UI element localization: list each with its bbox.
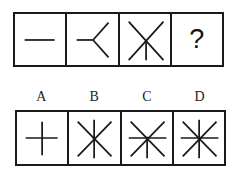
sequence-cell-unknown: ? [172, 14, 222, 65]
eight-ray-star-figure [174, 112, 224, 164]
sequence-cell-3 [120, 14, 172, 65]
seven-ray-star-figure [122, 112, 172, 164]
six-ray-star-figure [69, 112, 119, 164]
y-shape-figure [67, 14, 117, 65]
plus-figure [17, 112, 67, 164]
options-row [15, 110, 226, 166]
option-label-a: A [15, 88, 68, 106]
option-b[interactable] [69, 112, 121, 164]
horizontal-line-figure [15, 14, 65, 65]
sequence-row: ? [13, 12, 224, 67]
option-c[interactable] [122, 112, 174, 164]
option-label-d: D [173, 88, 226, 106]
sequence-cell-1 [15, 14, 67, 65]
option-labels: A B C D [15, 88, 226, 106]
sequence-cell-2 [67, 14, 119, 65]
option-d[interactable] [174, 112, 224, 164]
x-half-vertical-figure [120, 14, 170, 65]
question-mark: ? [172, 25, 222, 52]
option-label-c: C [121, 88, 174, 106]
option-a[interactable] [17, 112, 69, 164]
option-label-b: B [68, 88, 121, 106]
